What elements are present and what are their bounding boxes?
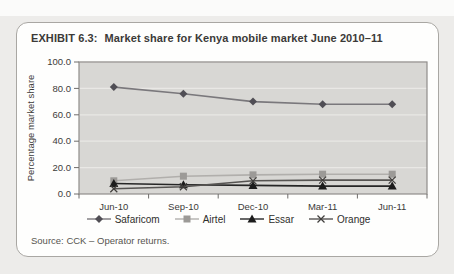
svg-text:Dec-10: Dec-10 [238, 201, 269, 212]
exhibit-card: EXHIBIT 6.3:Market share for Kenya mobil… [16, 22, 439, 257]
legend-item-essar: Essar [240, 214, 294, 225]
svg-text:Mar-11: Mar-11 [308, 201, 337, 212]
legend-item-airtel: Airtel [175, 214, 226, 225]
legend-label-safaricom: Safaricom [115, 214, 160, 225]
airtel-square-marker-icon [175, 214, 199, 224]
svg-text:Jun-11: Jun-11 [378, 201, 406, 212]
svg-text:0.0: 0.0 [58, 188, 71, 199]
legend-label-airtel: Airtel [203, 214, 226, 225]
legend-item-orange: Orange [309, 214, 370, 225]
page-top-strip [0, 0, 454, 16]
svg-text:40.0: 40.0 [53, 135, 72, 146]
legend-item-safaricom: Safaricom [87, 214, 160, 225]
legend-label-essar: Essar [268, 214, 294, 225]
chart-legend: Safaricom Airtel Essar Orange [17, 212, 440, 226]
svg-text:Sep-10: Sep-10 [168, 201, 199, 212]
legend-label-orange: Orange [337, 214, 370, 225]
svg-text:100.0: 100.0 [47, 56, 71, 67]
svg-text:20.0: 20.0 [53, 162, 72, 173]
safaricom-diamond-marker-icon [87, 214, 111, 224]
essar-triangle-marker-icon [240, 214, 264, 224]
svg-text:60.0: 60.0 [53, 109, 72, 120]
svg-text:80.0: 80.0 [53, 83, 72, 94]
source-note: Source: CCK – Operator returns. [31, 235, 169, 246]
orange-x-marker-icon [309, 214, 333, 224]
svg-text:Jun-10: Jun-10 [99, 201, 128, 212]
